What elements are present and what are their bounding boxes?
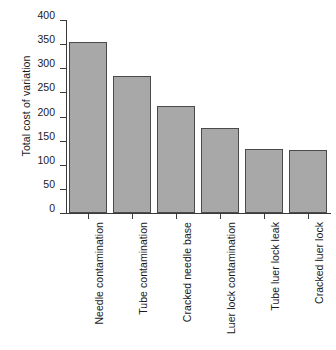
x-axis-category-label: Tube luer lock leak xyxy=(269,222,281,311)
bar xyxy=(157,106,195,213)
y-axis-tick-label: 50 xyxy=(0,184,55,185)
x-axis-tick xyxy=(220,214,221,219)
y-axis-tick-label: 150 xyxy=(0,136,55,137)
y-axis-tick-label: 0 xyxy=(0,208,55,209)
y-axis-tick-label: 300 xyxy=(0,63,55,64)
bar xyxy=(201,128,239,213)
bar xyxy=(69,42,107,213)
y-axis-tick-label: 400 xyxy=(0,15,55,16)
y-axis-title: Total cost of variation xyxy=(20,16,32,196)
x-axis-category-label: Cracked needle base xyxy=(181,222,193,322)
y-axis-tick-label: 100 xyxy=(0,160,55,161)
bar-chart: Total cost of variation 0501001502002503… xyxy=(0,0,336,350)
y-axis-tick-label: 250 xyxy=(0,87,55,88)
bar xyxy=(113,76,151,213)
x-axis-category-label: Tube contamination xyxy=(137,222,149,315)
bar xyxy=(245,149,283,213)
y-axis-tick-label: 200 xyxy=(0,112,55,113)
x-axis-category-label: Luer lock contamination xyxy=(225,222,237,334)
y-axis-tick xyxy=(60,213,67,214)
x-axis-tick xyxy=(176,214,177,219)
bar xyxy=(289,150,327,213)
x-axis-line xyxy=(66,213,331,214)
x-axis-category-label: Needle contamination xyxy=(93,222,105,325)
y-axis-tick-label: 350 xyxy=(0,39,55,40)
x-axis-tick xyxy=(88,214,89,219)
x-axis-tick xyxy=(132,214,133,219)
x-axis-category-label: Cracked luer lock xyxy=(313,222,325,304)
x-axis-tick xyxy=(308,214,309,219)
x-axis-tick xyxy=(264,214,265,219)
plot-area xyxy=(66,20,330,213)
